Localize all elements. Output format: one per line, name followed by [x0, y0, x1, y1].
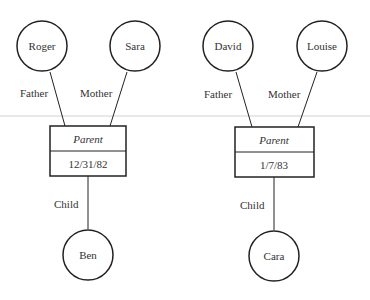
father-role-label: Father: [20, 87, 48, 99]
mother-role-label: Mother: [268, 88, 301, 100]
child-name: Cara: [264, 250, 285, 262]
relationship-date: 1/7/83: [260, 159, 289, 171]
relationship-title: Parent: [258, 134, 289, 146]
mother-name: Louise: [307, 40, 337, 52]
child-role-label: Child: [240, 199, 265, 211]
father-edge: [236, 72, 252, 127]
father-role-label: Father: [204, 88, 232, 100]
father-name: Roger: [29, 40, 56, 52]
mother-name: Sara: [125, 40, 145, 52]
father-edge: [50, 72, 65, 126]
family-relationship-diagram: Roger Sara Father Mother Parent 12/31/82…: [0, 0, 370, 300]
child-role-label: Child: [54, 198, 79, 210]
mother-role-label: Mother: [80, 87, 113, 99]
father-name: David: [215, 40, 242, 52]
group-david-louise: David Louise Father Mother Parent 1/7/83…: [203, 21, 347, 281]
child-name: Ben: [79, 249, 97, 261]
mother-edge: [298, 72, 317, 127]
mother-edge: [110, 72, 127, 126]
relationship-date: 12/31/82: [68, 158, 107, 170]
group-roger-sara: Roger Sara Father Mother Parent 12/31/82…: [17, 21, 160, 280]
relationship-title: Parent: [72, 133, 103, 145]
